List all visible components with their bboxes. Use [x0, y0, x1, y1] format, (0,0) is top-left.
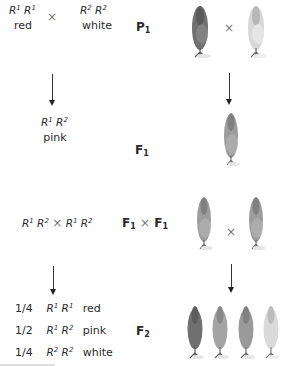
plant-white-icon — [244, 2, 268, 60]
f1-generation-label: F1 — [135, 143, 149, 158]
p1-cross-symbol: × — [47, 10, 57, 24]
p1-parent-right-genotype: R2 R2 — [80, 4, 107, 16]
f1xf1-generation-label: F1 × F1 — [122, 216, 168, 231]
gen-letter: F — [135, 143, 143, 157]
arrow-down-icon — [231, 264, 232, 288]
p1-generation-label: P1 — [136, 20, 150, 35]
p1-parent-left-phenotype: red — [3, 19, 43, 32]
gen-letter: F — [122, 216, 130, 230]
cross-symbol: × — [140, 216, 150, 230]
allele-sup: 2 — [44, 217, 48, 225]
f2-ratio-list: 1/4 R1 R1 red 1/2 R1 R2 pink 1/4 R2 R2 w… — [15, 302, 113, 366]
allele-sup: 2 — [87, 4, 91, 12]
gen-sub: 1 — [162, 222, 168, 231]
allele: R — [62, 302, 69, 314]
phenotype: red — [83, 302, 101, 315]
allele-sup: 2 — [54, 346, 58, 354]
plant-red-icon — [184, 303, 206, 361]
arrow-down-icon — [229, 73, 230, 100]
allele-sup: 1 — [31, 4, 35, 12]
f1-phenotype: pink — [37, 131, 73, 144]
allele: R — [81, 217, 88, 229]
allele: R — [47, 346, 54, 358]
allele-sup: 1 — [54, 324, 58, 332]
plant-pink-icon — [245, 194, 267, 252]
phenotype: pink — [83, 324, 106, 337]
allele-sup: 2 — [69, 346, 73, 354]
gen-sub: 2 — [144, 330, 150, 339]
gen-sub: 1 — [130, 222, 136, 231]
cross-symbol: × — [52, 216, 62, 230]
allele-sup: 2 — [69, 324, 73, 332]
plant-pink-icon — [193, 194, 215, 252]
f1xf1-plant-cross-symbol: × — [226, 225, 236, 239]
p1-plant-cross-symbol: × — [224, 21, 234, 35]
allele-sup: 1 — [54, 302, 58, 310]
gen-sub: 1 — [145, 26, 151, 35]
f2-ratio-row: 1/4 R1 R1 red — [15, 302, 113, 324]
fraction: 1/4 — [15, 346, 43, 359]
f2-generation-label: F2 — [136, 324, 150, 339]
allele-sup: 1 — [16, 4, 20, 12]
allele: R — [47, 324, 54, 336]
plant-red-icon — [188, 2, 212, 60]
fraction: 1/2 — [15, 324, 43, 337]
phenotype: white — [83, 346, 113, 359]
fraction: 1/4 — [15, 302, 43, 315]
plant-pink-icon — [209, 303, 231, 361]
p1-parent-right-phenotype: white — [76, 19, 118, 32]
allele-sup: 1 — [69, 302, 73, 310]
f2-ratio-row: 1/2 R1 R2 pink — [15, 324, 113, 346]
allele-sup: 1 — [73, 217, 77, 225]
arrow-down-icon — [53, 266, 54, 290]
genotype: R1 R2 — [47, 324, 77, 336]
allele: R — [47, 302, 54, 314]
allele-sup: 2 — [63, 116, 67, 124]
allele-sup: 1 — [29, 217, 33, 225]
genotype: R1 R1 — [47, 302, 77, 314]
plant-pink-icon — [220, 110, 242, 168]
allele: R — [62, 346, 69, 358]
plant-pink-icon — [235, 303, 257, 361]
gen-letter: P — [136, 20, 145, 34]
f1xf1-genotype-cross: R1 R2 × R1 R2 — [22, 216, 93, 230]
arrow-down-icon — [52, 74, 53, 101]
plant-white-icon — [260, 303, 282, 361]
allele-sup: 2 — [88, 217, 92, 225]
genotype: R2 R2 — [47, 346, 77, 358]
gen-letter: F — [136, 324, 144, 338]
f1-genotype: R1 R2 — [41, 116, 68, 128]
gen-sub: 1 — [143, 149, 149, 158]
allele-sup: 2 — [102, 4, 106, 12]
p1-parent-left-genotype: R1 R1 — [9, 4, 36, 16]
allele: R — [66, 217, 73, 229]
allele: R — [62, 324, 69, 336]
allele-sup: 1 — [48, 116, 52, 124]
f2-ratio-row: 1/4 R2 R2 white — [15, 346, 113, 366]
